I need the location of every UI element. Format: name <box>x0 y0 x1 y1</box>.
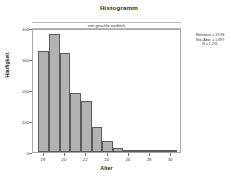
x-axis-tick-label: 20 <box>57 157 71 162</box>
y-axis-tick-label: 300 <box>13 58 29 63</box>
y-axis-tick-label: 200 <box>13 89 29 94</box>
page-title: Histogramm <box>0 4 238 11</box>
histogram-bar <box>81 101 92 152</box>
histogram-chart: Histogramm von geschl= weiblich Häufigke… <box>0 0 238 177</box>
x-axis-label: Alter <box>32 165 181 171</box>
histogram-bar <box>38 51 49 152</box>
y-axis-tick-label: 400 <box>13 27 29 32</box>
y-axis-tick <box>29 60 32 61</box>
y-axis-tick <box>29 122 32 123</box>
y-axis-tick <box>29 91 32 92</box>
histogram-bar <box>155 150 166 152</box>
y-axis-tick-label: 0 <box>13 151 29 156</box>
x-axis-tick <box>85 153 86 156</box>
y-axis-tick-label: 100 <box>13 120 29 125</box>
x-axis-tick <box>43 153 44 156</box>
x-axis-tick-label: 26 <box>121 157 135 162</box>
histogram-bar <box>166 150 177 152</box>
histogram-bar <box>102 141 113 152</box>
x-axis-tick-label: 22 <box>78 157 92 162</box>
x-axis-tick-label: 28 <box>142 157 156 162</box>
x-axis-tick <box>64 153 65 156</box>
histogram-bar <box>123 150 134 152</box>
histogram-bar <box>145 150 156 152</box>
x-axis-tick-label: 24 <box>100 157 114 162</box>
bars-container <box>33 30 180 152</box>
histogram-bar <box>60 53 71 152</box>
x-axis-tick-label: 18 <box>36 157 50 162</box>
x-axis-tick <box>170 153 171 156</box>
plot-area <box>32 29 181 153</box>
histogram-bar <box>49 34 60 152</box>
histogram-bar <box>70 93 81 152</box>
x-axis-tick <box>149 153 150 156</box>
y-axis-tick <box>29 153 32 154</box>
y-axis-label: Häufigkeit <box>4 20 10 110</box>
y-axis-tick <box>29 29 32 30</box>
x-axis-tick <box>128 153 129 156</box>
statistics-annotation: Mittelwert = 19,98 Std.-Abw. = 1,897 N =… <box>185 33 235 47</box>
stat-n: N = 1.291 <box>185 42 235 47</box>
histogram-bar <box>113 148 124 152</box>
x-axis-tick-label: 30 <box>163 157 177 162</box>
histogram-bar <box>92 127 103 152</box>
histogram-bar <box>134 150 145 152</box>
x-axis-tick <box>107 153 108 156</box>
